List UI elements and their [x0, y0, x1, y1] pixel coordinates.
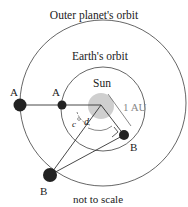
- parallax-diagram: Outer planet's orbit Earth's orbit Sun A…: [0, 0, 188, 207]
- line-sun-outerB: [50, 105, 101, 175]
- distance-label: 1 AU: [123, 101, 147, 113]
- earth-A: [58, 101, 67, 110]
- not-to-scale-label: not to scale: [73, 193, 123, 205]
- outer-orbit-label: Outer planet's orbit: [50, 9, 139, 22]
- outer-planet-A: [14, 99, 27, 112]
- angle-center-mark: [78, 118, 81, 121]
- angle-arc-d: [88, 126, 112, 131]
- outer-A-label: A: [10, 86, 18, 98]
- outer-B-label: B: [40, 185, 47, 197]
- earth-B-label: B: [130, 141, 137, 153]
- sun-label: Sun: [93, 77, 111, 89]
- right-angle-marker: [112, 127, 118, 137]
- earth-A-label: A: [52, 86, 60, 98]
- line-earthB-outerB: [50, 135, 124, 175]
- outer-planet-B: [43, 168, 57, 182]
- angle-c-label: c: [72, 119, 76, 129]
- earth-B: [119, 130, 129, 140]
- earth-orbit-label: Earth's orbit: [72, 50, 129, 62]
